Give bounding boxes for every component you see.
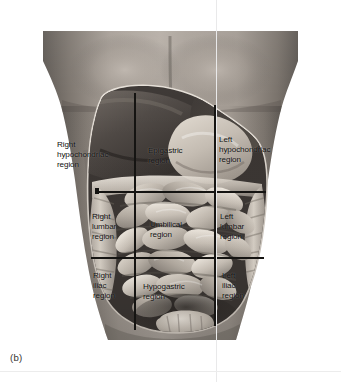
figure-caption: (b)	[10, 352, 22, 363]
label-left-hypochondriac: Left hypochondriac region	[219, 135, 270, 166]
label-umbilical: Umbilical region	[150, 220, 182, 240]
label-left-iliac: Left iliac region	[222, 271, 244, 302]
grid-tick-marker	[95, 188, 99, 194]
anatomical-figure: Right hypochondriac region Epigastric re…	[0, 0, 341, 382]
label-left-lumbar: Left lumbar region	[220, 212, 244, 243]
label-right-hypochondriac: Right hypochondriac region	[57, 140, 108, 171]
label-hypogastric: Hypogastric region	[143, 282, 185, 302]
label-right-lumbar: Right lumbar region	[92, 212, 116, 243]
scan-artifact-vertical	[216, 0, 217, 382]
label-right-iliac: Right iliac region	[93, 271, 115, 302]
scan-artifact-horizontal	[0, 371, 341, 372]
label-epigastric: Epigastric region	[148, 146, 183, 166]
abdominal-regions-illustration	[0, 0, 341, 382]
